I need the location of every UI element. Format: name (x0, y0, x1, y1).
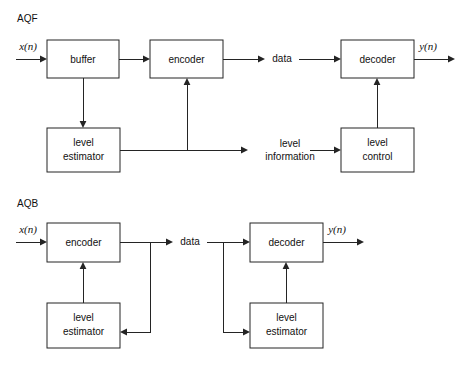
aqb-diagram: AQB (16, 198, 364, 348)
arrowhead-aqb-right-level-estimator-to-decoder (283, 262, 290, 269)
arrowhead-level-estimator-to-level-information (241, 147, 248, 154)
block-aqb-level-estimator-left-label-line2: estimator (63, 326, 105, 337)
block-aqf-encoder[interactable]: encoder (150, 40, 223, 78)
arrowhead-decoder-to-output (448, 56, 455, 63)
block-aqb-decoder[interactable]: decoder (250, 223, 323, 262)
aqb-input-signal-label: x(n) (18, 223, 37, 236)
arrowhead-aqb-data-to-decoder (243, 239, 250, 246)
aqf-diagram: AQF (16, 13, 455, 172)
arrowhead-data-to-decoder (334, 56, 341, 63)
arrowhead-level-information-to-level-control (334, 147, 341, 154)
aqf-level-information-label-line1: level (280, 138, 301, 149)
block-aqf-buffer-label: buffer (70, 54, 96, 65)
aqb-data-label: data (180, 236, 200, 247)
aqf-output-signal-label: y(n) (418, 40, 437, 53)
block-aqb-level-estimator-right-label-line1: level (276, 312, 297, 323)
block-aqf-level-estimator-label-line2: estimator (63, 151, 105, 162)
block-aqf-decoder-label: decoder (359, 54, 396, 65)
block-aqf-level-estimator[interactable]: level estimator (47, 128, 120, 172)
block-aqb-level-estimator-right[interactable]: level estimator (250, 303, 323, 348)
arrowhead-input-to-buffer (40, 56, 47, 63)
block-aqf-level-control[interactable]: level control (341, 128, 414, 172)
block-aqb-decoder-label: decoder (268, 237, 305, 248)
wire-aqb-encoder-branch-to-left-level-estimator (123, 242, 150, 332)
arrowhead-aqb-encoder-to-data (166, 239, 173, 246)
aqb-title: AQB (17, 198, 38, 209)
aqf-blocks: buffer encoder decoder level estimator (47, 40, 414, 172)
arrowhead-aqb-branch-to-right-level-estimator (243, 329, 250, 336)
arrowhead-level-control-to-decoder (374, 78, 381, 85)
aqf-data-label: data (272, 53, 292, 64)
arrowhead-level-estimator-to-encoder (184, 78, 191, 85)
aqf-level-information-label-line2: information (265, 151, 314, 162)
wire-aqb-data-branch-to-right-level-estimator (223, 242, 247, 332)
arrowhead-buffer-to-encoder (143, 56, 150, 63)
arrowhead-encoder-to-data (258, 56, 265, 63)
arrowhead-aqb-input-to-encoder (40, 239, 47, 246)
block-aqb-encoder[interactable]: encoder (47, 223, 120, 262)
block-aqf-encoder-label: encoder (168, 54, 205, 65)
aqf-title: AQF (17, 13, 38, 24)
block-aqf-buffer[interactable]: buffer (47, 40, 119, 78)
arrowhead-aqb-left-level-estimator-to-encoder (80, 262, 87, 269)
block-aqb-encoder-label: encoder (65, 237, 102, 248)
block-diagram-figure: AQF (0, 0, 466, 367)
block-aqf-decoder[interactable]: decoder (341, 40, 414, 78)
arrowhead-aqb-decoder-to-output (357, 239, 364, 246)
block-aqb-level-estimator-left-label-line1: level (73, 312, 94, 323)
block-aqf-level-estimator-label-line1: level (73, 137, 94, 148)
block-aqf-level-control-label-line2: control (362, 151, 392, 162)
aqf-input-signal-label: x(n) (18, 40, 37, 53)
block-aqf-level-control-label-line1: level (367, 137, 388, 148)
figure-canvas: AQF (0, 0, 466, 367)
aqb-output-signal-label: y(n) (327, 223, 346, 236)
arrowhead-buffer-to-level-estimator (80, 121, 87, 128)
block-aqb-level-estimator-right-label-line2: estimator (266, 326, 308, 337)
arrowhead-aqb-branch-to-left-level-estimator (120, 329, 127, 336)
block-aqb-level-estimator-left[interactable]: level estimator (47, 303, 120, 348)
